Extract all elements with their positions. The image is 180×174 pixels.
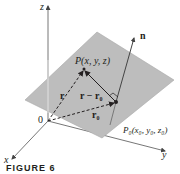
y-axis-label: y: [162, 150, 166, 160]
x-axis: [12, 121, 48, 159]
diagram-canvas: [0, 0, 180, 174]
point-P-label: P(x, y, z): [75, 56, 110, 66]
vector-r0-label: r₀: [92, 110, 99, 120]
figure-caption: FIGURE 6: [6, 164, 56, 173]
z-axis-label: z: [40, 2, 44, 12]
point-P0: [114, 100, 118, 104]
origin-label: 0: [38, 115, 43, 125]
vector-n-label: n: [140, 31, 146, 41]
vector-r-minus-r0-label: r − r₀: [80, 91, 102, 101]
point-P0-label: P₀(x₀, y₀, z₀): [123, 126, 168, 135]
vector-r-label: r: [60, 91, 64, 101]
plane-normal-diagram: z x y 0 P(x, y, z) P₀(x₀, y₀, z₀) r r − …: [0, 0, 180, 174]
point-P: [83, 68, 86, 71]
